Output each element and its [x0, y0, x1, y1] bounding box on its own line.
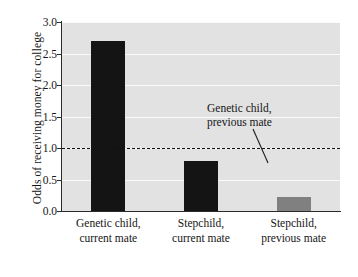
- y-tick-label: 3.0: [31, 16, 57, 28]
- y-tick-label: 2.5: [31, 48, 57, 60]
- x-tick-label: Stepchild,previous mate: [239, 216, 349, 245]
- x-tick-label-line: previous mate: [239, 231, 349, 246]
- y-tick-mark: [57, 85, 62, 86]
- reference-line-annotation: Genetic child, previous mate: [207, 101, 272, 129]
- y-tick-label: 1.0: [31, 142, 57, 154]
- y-tick-label: 2.0: [31, 79, 57, 91]
- y-tick-label: 1.5: [31, 111, 57, 123]
- bar-chart-figure: Odds of receiving money for college 0.00…: [0, 0, 358, 277]
- y-tick-mark: [57, 22, 62, 23]
- bar: [184, 161, 218, 211]
- y-tick-mark: [57, 54, 62, 55]
- y-tick-mark: [57, 180, 62, 181]
- annotation-line-1: Genetic child,: [207, 102, 272, 114]
- x-tick-label-line: Stepchild,: [239, 216, 349, 231]
- y-tick-label: 0.5: [31, 174, 57, 186]
- bar: [91, 41, 125, 211]
- bar: [277, 197, 311, 211]
- y-tick-mark: [57, 117, 62, 118]
- y-tick-mark: [57, 148, 62, 149]
- plot-area: [62, 22, 340, 211]
- reference-line: [62, 148, 340, 149]
- gridline: [62, 22, 340, 23]
- y-tick-mark: [57, 211, 62, 212]
- annotation-line-2: previous mate: [207, 116, 272, 128]
